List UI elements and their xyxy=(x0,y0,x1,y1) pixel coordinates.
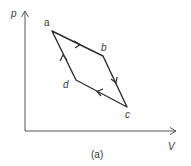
axes xyxy=(22,11,177,135)
cycle-path xyxy=(52,31,127,107)
x-axis-label: V xyxy=(168,141,176,152)
cycle-polygon xyxy=(52,31,127,107)
vertex-label-c: c xyxy=(125,109,130,120)
caption: (a) xyxy=(91,149,103,160)
pv-diagram: p V a b c d (a) xyxy=(0,0,191,166)
vertex-label-d: d xyxy=(63,79,69,90)
vertex-label-a: a xyxy=(44,17,50,28)
y-axis-label: p xyxy=(10,8,17,19)
vertex-label-b: b xyxy=(101,42,107,53)
arrow-ab-icon xyxy=(74,41,80,48)
